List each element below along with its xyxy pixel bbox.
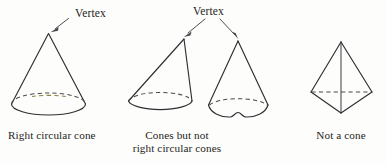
figure-canvas: Vertex Vertex (0, 0, 387, 163)
oblique-cone-group (129, 39, 193, 110)
vertex-left-leader-line (56, 19, 69, 29)
tetrahedron-group (311, 42, 372, 113)
vertex-left-arrowhead (51, 27, 59, 32)
oblique-cone-base-front-arc (129, 101, 193, 110)
right-circular-cone-base-front-arc (12, 104, 86, 115)
tetrahedron-edge-right-to-bottom (341, 92, 372, 113)
right-circular-cone-base-back-arc (12, 93, 86, 104)
wavy-base-cone-left-slant (209, 41, 239, 105)
vertex-middle-arrowhead-left (184, 32, 192, 38)
tetrahedron-edge-apex-to-right (341, 42, 372, 92)
oblique-cone-base-back-arc (129, 92, 193, 101)
vertex-left-label: Vertex (75, 7, 106, 19)
wavy-base-cone-base-front-edge (209, 105, 269, 117)
oblique-cone-left-slant (129, 39, 185, 101)
vertex-middle-label: Vertex (193, 5, 224, 17)
wavy-base-cone-group (209, 41, 269, 117)
tetrahedron-edge-left-to-bottom (311, 92, 341, 113)
caption-left: Right circular cone (8, 129, 96, 141)
right-circular-cone-left-slant (12, 34, 49, 105)
caption-middle-line2: right circular cones (133, 142, 221, 154)
right-circular-cone-base-back-arc-highlight (32, 95, 66, 96)
vertex-middle-leader-group (184, 19, 239, 39)
caption-middle-line1: Cones but not (145, 129, 209, 141)
caption-right: Not a cone (316, 129, 365, 141)
vertex-middle-leader-line-left (188, 19, 205, 33)
wavy-base-cone-base-back-arc (210, 99, 268, 105)
tetrahedron-edge-apex-to-left (311, 42, 341, 92)
wavy-base-cone-right-slant (238, 41, 268, 105)
vertex-middle-arrowhead-right (232, 32, 238, 39)
right-circular-cone-group (12, 34, 86, 116)
vertex-left-leader-group (51, 19, 69, 33)
cone-classification-figure: Vertex Vertex (0, 0, 387, 163)
oblique-cone-right-slant (184, 39, 192, 101)
